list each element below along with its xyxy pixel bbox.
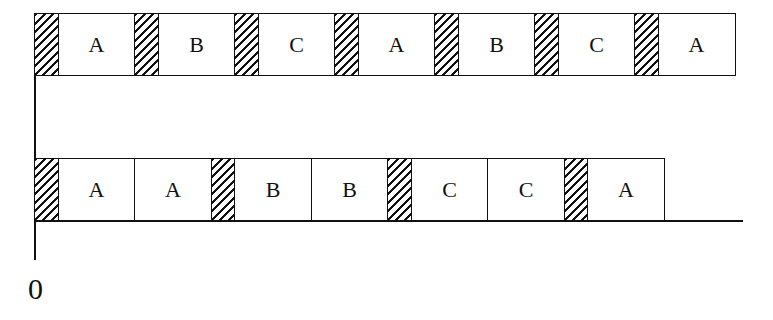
task-block: A: [134, 158, 212, 221]
task-block: A: [658, 13, 736, 76]
top-schedule-row: ABCABCA: [34, 13, 736, 76]
task-block: C: [411, 158, 489, 221]
context-switch-block: [234, 13, 259, 76]
task-label: B: [189, 32, 204, 58]
task-block: C: [487, 158, 565, 221]
context-switch-block: [34, 158, 59, 221]
task-block: B: [311, 158, 389, 221]
context-switch-block: [387, 158, 412, 221]
context-switch-block: [534, 13, 559, 76]
task-block: A: [58, 13, 136, 76]
context-switch-block: [334, 13, 359, 76]
bottom-schedule-row: AABBCCA: [34, 158, 665, 221]
task-label: A: [89, 177, 105, 203]
task-block: B: [158, 13, 236, 76]
task-label: B: [342, 177, 357, 203]
task-block: C: [258, 13, 336, 76]
task-label: C: [589, 32, 604, 58]
context-switch-block: [634, 13, 659, 76]
task-block: A: [58, 158, 136, 221]
task-block: A: [587, 158, 665, 221]
context-switch-block: [564, 158, 589, 221]
task-label: B: [266, 177, 281, 203]
context-switch-block: [34, 13, 59, 76]
task-label: A: [165, 177, 181, 203]
task-block: B: [234, 158, 312, 221]
task-label: B: [489, 32, 504, 58]
origin-label: 0: [28, 272, 43, 306]
context-switch-block: [134, 13, 159, 76]
context-switch-block: [434, 13, 459, 76]
task-block: C: [558, 13, 636, 76]
task-label: C: [289, 32, 304, 58]
task-label: C: [442, 177, 457, 203]
task-block: A: [358, 13, 436, 76]
context-switch-block: [211, 158, 236, 221]
task-block: B: [458, 13, 536, 76]
task-label: A: [618, 177, 634, 203]
task-label: A: [89, 32, 105, 58]
task-label: A: [689, 32, 705, 58]
task-label: C: [519, 177, 534, 203]
task-label: A: [389, 32, 405, 58]
